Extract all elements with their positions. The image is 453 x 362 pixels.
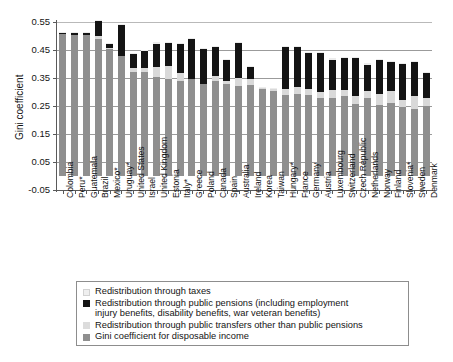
legend-item-pensions: Redistribution through public pensions (… [83, 298, 402, 319]
bar-segment-disposable [177, 81, 184, 176]
bar-segment-transfers [223, 81, 230, 84]
bar-segment-pensions [305, 53, 312, 89]
bar-segment-transfers [341, 90, 348, 96]
bar-segment-taxes [106, 43, 113, 44]
bar-segment-taxes [141, 50, 148, 51]
bar-segment-pensions [177, 44, 184, 73]
x-axis-label: Denmark [430, 163, 439, 198]
bar-segment-pensions [106, 44, 113, 48]
bar-segment-transfers [399, 100, 406, 107]
legend-swatch-taxes-icon [83, 289, 90, 296]
bar-segment-pensions [399, 64, 406, 100]
x-axis-label: Poland [207, 171, 216, 198]
bar-segment-taxes [153, 42, 160, 43]
bar-segment-transfers [153, 67, 160, 77]
y-axis-tick-label: 0.15 [32, 129, 51, 139]
x-axis-label: Norway [383, 169, 392, 198]
x-axis-label: Switzerland [348, 154, 357, 198]
bar-segment-disposable [247, 85, 254, 176]
bar-segment-transfers [294, 87, 301, 94]
x-axis-label: Korea [265, 175, 274, 198]
bar-segment-pensions [376, 60, 383, 94]
bar-segment-transfers [177, 73, 184, 81]
x-axis-label: Colombia [66, 162, 75, 198]
bar-segment-taxes [177, 43, 184, 44]
bar-segment-transfers [95, 36, 102, 39]
legend-label-taxes: Redistribution through taxes [95, 286, 211, 297]
y-axis-tick-label: 0.55 [32, 17, 51, 27]
bar-segment-taxes [247, 66, 254, 67]
bar-segment-pensions [153, 44, 160, 67]
x-axis-label: Estonia [172, 169, 181, 198]
bar-segment-taxes [200, 48, 207, 49]
bar-segment-disposable [387, 103, 394, 176]
legend-label-pensions-line2: injury benefits, disability benefits, wa… [95, 308, 320, 318]
x-axis-label: Greece [195, 170, 204, 198]
bar-segment-pensions [235, 43, 242, 78]
bar-segment-disposable [59, 34, 66, 176]
bar-segment-transfers [423, 98, 430, 106]
bar-segment-taxes [423, 72, 430, 73]
bar-segment-pensions [387, 62, 394, 91]
bar-segment-taxes [71, 32, 78, 33]
x-axis-label: Germany [312, 163, 321, 198]
y-axis-tick-label: 0.05 [32, 157, 51, 167]
bar-segment-pensions [411, 62, 418, 97]
bar-segment-pensions [59, 33, 66, 34]
bar-segment-transfers [165, 66, 172, 79]
bar-segment-transfers [411, 96, 418, 108]
bar-segment-pensions [130, 54, 137, 68]
bar-segment-pensions [83, 33, 90, 35]
bar-segment-taxes [294, 46, 301, 47]
bar-segment-pensions [118, 25, 125, 56]
y-axis-tick-label: -0.05 [28, 185, 50, 195]
bar-segment-disposable [83, 35, 90, 176]
bar-segment-taxes [235, 42, 242, 43]
bar-segment-taxes [130, 53, 137, 54]
bar-segment-pensions [212, 47, 219, 76]
bar-segment-pensions [341, 58, 348, 90]
bar-segment-transfers [305, 89, 312, 95]
bar-segment-transfers [247, 79, 254, 85]
bar-segment-transfers [130, 68, 137, 72]
bar-segment-disposable [118, 56, 125, 176]
bar-segment-pensions [165, 43, 172, 66]
bar-segment-taxes [212, 46, 219, 47]
bar-segment-pensions [364, 65, 371, 91]
legend-swatch-transfers-icon [83, 322, 90, 329]
bar-segment-transfers [259, 88, 266, 89]
bar-segment-pensions [282, 47, 289, 88]
bar-segment-transfers [282, 89, 289, 95]
x-axis-label: Canada [219, 168, 228, 198]
legend-label-transfers: Redistribution through public transfers … [95, 320, 363, 331]
bar-segment-transfers [270, 89, 277, 91]
x-axis-label: Israel [148, 177, 157, 198]
bar-segment-pensions [188, 39, 195, 79]
bar-segment-taxes [59, 32, 66, 33]
bar-segment-transfers [317, 92, 324, 98]
x-axis-label: Hungary* [289, 162, 298, 198]
legend-item-disposable: Gini coefficient for disposable income [83, 331, 402, 342]
bar-segment-taxes [118, 24, 125, 25]
legend-item-transfers: Redistribution through public transfers … [83, 320, 402, 331]
x-axis-label: Spain [230, 176, 239, 198]
x-axis-label: Uruguay* [125, 162, 134, 198]
bar-segment-taxes [399, 63, 406, 64]
legend-swatch-disposable-icon [83, 334, 90, 341]
legend-item-taxes: Redistribution through taxes [83, 286, 402, 297]
bar-segment-taxes [223, 59, 230, 60]
x-axis-label: Ireland [254, 172, 263, 198]
bar-segment-disposable [188, 79, 195, 176]
x-axis-label: Australia [242, 165, 251, 198]
bar-segment-transfers [364, 91, 371, 98]
bar-segment-transfers [376, 94, 383, 105]
bar-segment-pensions [247, 67, 254, 79]
bar-segment-disposable [235, 86, 242, 176]
bar-segment-pensions [95, 21, 102, 36]
bar-segment-pensions [141, 51, 148, 68]
x-axis-label: Czech Republic [359, 138, 368, 198]
y-axis-tick-label: 0.25 [32, 101, 51, 111]
bar-segment-transfers [235, 78, 242, 86]
bar-segment-taxes [341, 57, 348, 58]
bar-segment-transfers [106, 48, 113, 49]
